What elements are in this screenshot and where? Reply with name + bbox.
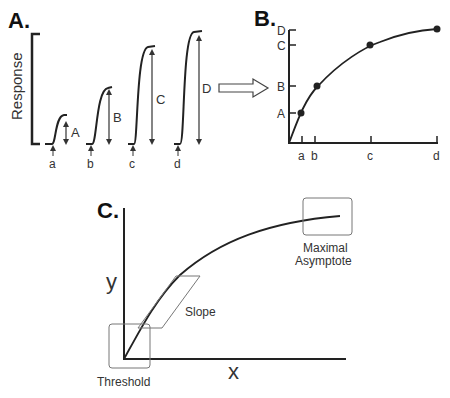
panel-b-label: B. xyxy=(254,6,276,31)
b-ytick-b: B xyxy=(277,80,285,94)
dose-response-curve xyxy=(289,29,437,143)
amplitude-label-d: D xyxy=(202,81,211,96)
generic-response-curve xyxy=(124,216,340,359)
amplitude-label-b: B xyxy=(113,110,122,125)
c-y-label: y xyxy=(106,269,117,294)
data-point-b xyxy=(314,83,321,90)
response-curve-d xyxy=(174,31,202,144)
panel-a: A. Response A a B b C c D d xyxy=(8,8,211,171)
b-xtick-c: c xyxy=(367,149,373,163)
response-curve-a xyxy=(45,115,67,144)
response-bracket xyxy=(32,34,40,144)
response-curve-c xyxy=(128,46,155,144)
data-point-d xyxy=(434,26,441,33)
response-curve-b xyxy=(86,87,112,144)
b-ytick-a: A xyxy=(277,107,285,121)
panel-a-label: A. xyxy=(8,8,30,33)
threshold-label: Threshold xyxy=(97,375,150,389)
stimulus-label-a: a xyxy=(49,157,56,171)
amplitude-label-c: C xyxy=(156,92,165,107)
amplitude-label-a: A xyxy=(71,125,80,140)
data-point-c xyxy=(367,42,374,49)
threshold-box xyxy=(109,324,150,368)
panel-b: B. A B C D a b c d xyxy=(254,6,441,163)
stimulus-label-b: b xyxy=(87,157,94,171)
b-xtick-b: b xyxy=(311,149,318,163)
asymptote-label-line1: Maximal xyxy=(303,241,348,255)
b-ytick-d: D xyxy=(277,24,286,38)
panel-c: C. y x Threshold Slope Maximal Asymptote xyxy=(97,198,352,389)
stimulus-label-c: c xyxy=(129,157,135,171)
c-x-label: x xyxy=(228,359,239,384)
figure-canvas: A. Response A a B b C c D d B. xyxy=(0,0,450,398)
panel-c-label: C. xyxy=(97,198,119,223)
stimulus-label-d: d xyxy=(174,157,181,171)
b-xtick-d: d xyxy=(433,149,440,163)
slope-label: Slope xyxy=(185,305,216,319)
transform-arrow-icon xyxy=(219,79,268,97)
slope-box xyxy=(138,276,200,328)
data-point-a xyxy=(298,110,305,117)
b-ytick-c: C xyxy=(277,39,286,53)
asymptote-label-line2: Asymptote xyxy=(295,254,352,268)
b-xtick-a: a xyxy=(298,149,305,163)
response-axis-label: Response xyxy=(8,52,25,120)
